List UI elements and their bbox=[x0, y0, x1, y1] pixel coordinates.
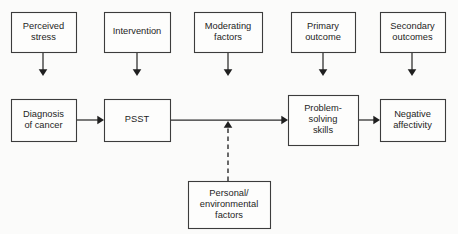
arrowhead-primary-outcome-to-problem-solving bbox=[319, 69, 328, 76]
connector-layer bbox=[39, 52, 417, 181]
box-label-diagnosis-of-cancer: Diagnosis bbox=[23, 109, 64, 119]
box-label-perceived-stress: Perceived bbox=[23, 21, 64, 31]
arrowhead-problem-solving-to-negative-affectivity bbox=[373, 116, 380, 125]
arrowhead-perceived-stress-to-diagnosis bbox=[39, 69, 48, 76]
box-label-moderating-factors: Moderating bbox=[205, 21, 252, 31]
box-label-secondary-outcomes: Secondary bbox=[390, 21, 435, 31]
box-intervention[interactable]: Intervention bbox=[105, 13, 171, 53]
box-secondary-outcomes[interactable]: Secondaryoutcomes bbox=[381, 13, 446, 53]
box-label-primary-outcome: outcome bbox=[305, 32, 341, 42]
box-psst[interactable]: PSST bbox=[105, 100, 171, 142]
box-label-perceived-stress: stress bbox=[31, 32, 56, 42]
box-label-diagnosis-of-cancer: of cancer bbox=[24, 120, 62, 130]
arrowhead-secondary-outcomes-to-negative-affectivity bbox=[408, 69, 417, 76]
box-label-moderating-factors: factors bbox=[214, 32, 242, 42]
box-label-secondary-outcomes: outcomes bbox=[392, 32, 433, 42]
box-label-personal-environmental-factors: environmental bbox=[200, 199, 258, 209]
box-label-problem-solving-skills: Problem- bbox=[304, 103, 342, 113]
arrowhead-moderating-factors-to-flow bbox=[224, 69, 233, 76]
arrowhead-psst-to-problem-solving bbox=[281, 116, 288, 125]
box-diagnosis-of-cancer[interactable]: Diagnosisof cancer bbox=[12, 100, 77, 142]
flow-diagram: PerceivedstressInterventionModeratingfac… bbox=[0, 0, 458, 234]
box-negative-affectivity[interactable]: Negativeaffectivity bbox=[381, 100, 446, 142]
box-label-psst: PSST bbox=[125, 114, 150, 124]
box-label-problem-solving-skills: solving bbox=[309, 114, 338, 124]
box-label-intervention: Intervention bbox=[113, 26, 162, 36]
box-label-negative-affectivity: Negative bbox=[394, 109, 431, 119]
box-moderating-factors[interactable]: Moderatingfactors bbox=[195, 13, 263, 53]
arrowhead-personal-factors-to-flow bbox=[224, 121, 233, 128]
diagram-canvas: PerceivedstressInterventionModeratingfac… bbox=[0, 0, 458, 234]
box-personal-environmental-factors[interactable]: Personal/environmentalfactors bbox=[189, 182, 271, 229]
box-label-primary-outcome: Primary bbox=[307, 21, 339, 31]
box-label-personal-environmental-factors: factors bbox=[215, 210, 243, 220]
box-problem-solving-skills[interactable]: Problem-solvingskills bbox=[289, 96, 359, 146]
box-perceived-stress[interactable]: Perceivedstress bbox=[12, 13, 77, 53]
box-label-personal-environmental-factors: Personal/ bbox=[209, 188, 249, 198]
arrowhead-intervention-to-psst bbox=[133, 69, 142, 76]
box-label-problem-solving-skills: skills bbox=[313, 125, 333, 135]
box-label-negative-affectivity: affectivity bbox=[393, 120, 432, 130]
box-primary-outcome[interactable]: Primaryoutcome bbox=[292, 13, 356, 53]
arrowhead-diagnosis-to-psst bbox=[97, 116, 104, 125]
